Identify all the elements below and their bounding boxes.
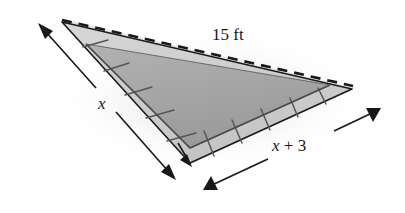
- hypotenuse-label: 15 ft: [212, 26, 244, 43]
- bottom-leg-constant: 3: [298, 136, 307, 155]
- left-leg-label: x: [98, 95, 106, 112]
- figure-container: 15 ft x x + 3: [0, 0, 405, 213]
- bottom-leg-variable: x: [272, 136, 280, 155]
- bottom-leg-label: x + 3: [272, 137, 306, 154]
- triangle-diagram-svg: [0, 0, 405, 213]
- bottom-leg-operator: +: [280, 136, 298, 155]
